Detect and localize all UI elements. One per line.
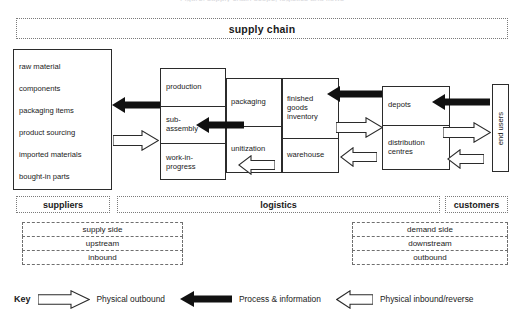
legend-item-physical-outbound: Physical outbound (38, 290, 165, 309)
physical-outbound-arrow-to-end-users (443, 122, 491, 143)
band-logistics: logistics (117, 196, 440, 213)
stack-cell-upstream: upstream (22, 236, 183, 251)
physical-outbound-arrow-warehouse-to-depots (336, 117, 383, 138)
process-info-arrow-to-suppliers (112, 97, 160, 113)
physical-inbound-arrow-from-end-users (447, 149, 484, 169)
stack-cell-downstream: downstream (352, 236, 508, 251)
figure-caption-cropped: Figure: supply chain scope, logistics an… (0, 0, 524, 2)
legend-label: Physical outbound (97, 294, 165, 304)
demand-side-stack: demand side downstream outbound (352, 222, 508, 265)
band-suppliers-label: suppliers (43, 200, 83, 210)
list-item: raw material (19, 56, 111, 78)
production-row-production: production (161, 69, 225, 107)
supply-side-stack: supply side upstream inbound (22, 222, 183, 265)
physical-outbound-arrow-suppliers-to-production (113, 130, 159, 151)
stack-cell-inbound: inbound (22, 250, 183, 265)
physical-inbound-arrow-to-warehouse (340, 147, 377, 167)
process-info-arrow-to-production (196, 117, 244, 133)
supply-chain-banner: supply chain (16, 18, 508, 39)
list-item: components (19, 78, 111, 100)
band-customers-label: customers (454, 200, 500, 210)
diagram-canvas: Figure: supply chain scope, logistics an… (0, 0, 524, 319)
process-info-arrow-to-finished-goods (327, 86, 383, 102)
band-customers: customers (445, 196, 508, 213)
supply-chain-banner-label: supply chain (229, 23, 296, 35)
list-item: product sourcing (19, 122, 111, 144)
legend-item-physical-inbound-reverse: Physical inbound/reverse (336, 290, 474, 309)
suppliers-materials-box: raw material components packaging items … (13, 49, 112, 190)
legend-label: Process & information (239, 294, 321, 304)
band-suppliers: suppliers (16, 196, 110, 213)
end-users-box: end users (492, 84, 509, 172)
legend-label: Physical inbound/reverse (380, 294, 474, 304)
outline-arrow-right-icon (38, 290, 90, 309)
end-users-label: end users (496, 111, 505, 144)
legend: Key Physical outbound Process & informat… (14, 288, 514, 310)
list-item: packaging items (19, 100, 111, 122)
depots-row-distribution-centres: distribution centres (383, 126, 449, 170)
physical-inbound-arrow-packaging (238, 155, 275, 175)
band-logistics-label: logistics (260, 200, 297, 210)
process-info-arrow-to-depots (432, 94, 490, 110)
legend-item-process-information: Process & information (180, 291, 321, 307)
stack-cell-outbound: outbound (352, 250, 508, 265)
legend-title: Key (14, 294, 31, 304)
outline-arrow-left-icon (336, 290, 373, 309)
production-row-work-in-progress: work-in- progress (161, 144, 225, 181)
fgi-row-warehouse: warehouse (283, 139, 338, 173)
stack-cell-demand-side: demand side (352, 222, 508, 237)
list-item: bought-in parts (19, 166, 111, 188)
stack-cell-supply-side: supply side (22, 222, 183, 237)
list-item: imported materials (19, 144, 111, 166)
solid-arrow-left-icon (180, 291, 232, 307)
